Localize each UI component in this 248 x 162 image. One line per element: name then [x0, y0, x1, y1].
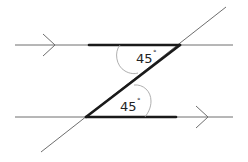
- top-angle-arc: [117, 45, 138, 74]
- bottom-angle-label: 45: [120, 99, 137, 114]
- bottom-angle-degree: °: [137, 97, 141, 105]
- top-angle-label: 45: [136, 51, 153, 66]
- top-angle-degree: °: [153, 49, 157, 57]
- diagram-canvas: 45 ° 45 °: [0, 0, 248, 162]
- alternate-angles-diagram: 45 ° 45 °: [0, 0, 248, 162]
